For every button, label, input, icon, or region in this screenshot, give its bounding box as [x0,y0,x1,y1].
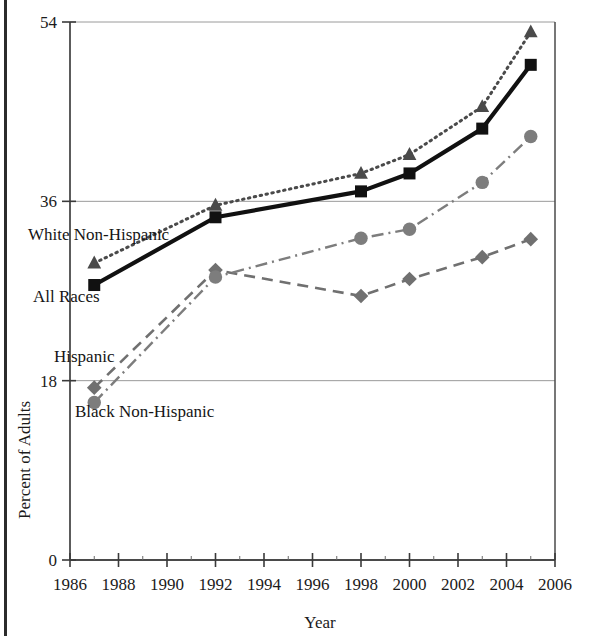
series-annotation-label: All Races [33,287,100,306]
y-tick-label: 18 [40,372,57,391]
marker-square [355,185,367,197]
marker-square [525,59,537,71]
series-annotation-label: Hispanic [54,347,115,366]
series-marker-group [88,59,537,291]
marker-triangle [403,147,417,160]
marker-triangle [87,256,101,269]
series-markers [87,24,538,409]
marker-triangle [524,24,538,37]
series-lines [94,32,531,403]
marker-circle [403,223,416,236]
series-annotations: White Non-HispanicAll RacesHispanicBlack… [28,225,215,421]
marker-circle [209,270,222,283]
series-marker-group [87,232,538,395]
x-tick-label: 1996 [296,575,330,594]
marker-circle [476,176,489,189]
x-tick-label: 2002 [441,575,475,594]
x-tick-labels: 1986198819901992199419961998200020022004… [53,575,572,594]
series-line [94,239,531,387]
marker-diamond [523,232,538,247]
chart-figure: 0183654 19861988199019921994199619982000… [0,0,603,642]
series-annotation-label: White Non-Hispanic [28,225,170,244]
x-axis-title: Year [304,613,336,632]
x-tick-label: 2000 [393,575,427,594]
marker-circle [354,231,367,244]
x-tick-label: 1992 [199,575,233,594]
marker-circle [524,130,537,143]
y-axis-title: Percent of Adults [15,401,34,519]
x-tick-label: 1998 [344,575,378,594]
marker-triangle [475,99,489,112]
marker-diamond [475,250,490,265]
series-annotation-label: Black Non-Hispanic [75,402,215,421]
x-tick-label: 1990 [150,575,184,594]
x-tick-label: 2004 [490,575,525,594]
line-chart-plot: 0183654 19861988199019921994199619982000… [0,0,603,642]
x-tick-label: 2006 [538,575,572,594]
marker-diamond [402,272,417,287]
marker-square [404,167,416,179]
series-marker-group [88,130,538,409]
x-tick-label: 1986 [53,575,87,594]
y-tick-label: 0 [49,551,58,570]
marker-diamond [354,289,369,304]
x-tick-label: 1994 [247,575,282,594]
y-tick-label: 36 [40,192,57,211]
y-tick-label: 54 [40,13,58,32]
series-line [94,137,531,403]
marker-square [476,123,488,135]
marker-square [210,211,222,223]
x-tick-label: 1988 [102,575,136,594]
